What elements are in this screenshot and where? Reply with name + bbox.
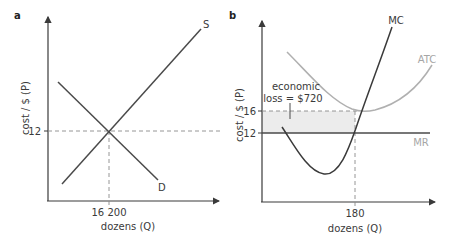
panel-b-label: b [229,10,236,21]
mc-label: MC [388,15,404,26]
y-tick-12: 12 [243,128,256,139]
economic-loss-area [262,111,355,133]
atc-label: ATC [418,54,437,65]
loss-label-line2: loss = $720 [263,93,323,104]
mr-label: MR [413,137,429,148]
loss-label-line1: economic [272,81,320,92]
panel-a-label: a [14,10,21,21]
y-tick-16: 16 [243,106,256,117]
y-axis-label: cost / $ (P) [20,81,31,135]
figure: a S D 12 16 200 dozens (Q) cost / $ (P) … [0,0,449,244]
y-axis-label: cost / $ (P) [234,88,245,142]
x-axis-label: dozens (Q) [101,221,155,232]
panel-b: b economic loss = $720 MC ATC MR 16 12 1… [229,10,436,234]
x-tick-16200: 16 200 [92,207,127,218]
demand-label: D [158,182,166,193]
x-axis-label: dozens (Q) [328,223,382,234]
panel-a: a S D 12 16 200 dozens (Q) cost / $ (P) [14,10,221,232]
supply-label: S [203,19,209,30]
x-tick-180: 180 [345,208,364,219]
